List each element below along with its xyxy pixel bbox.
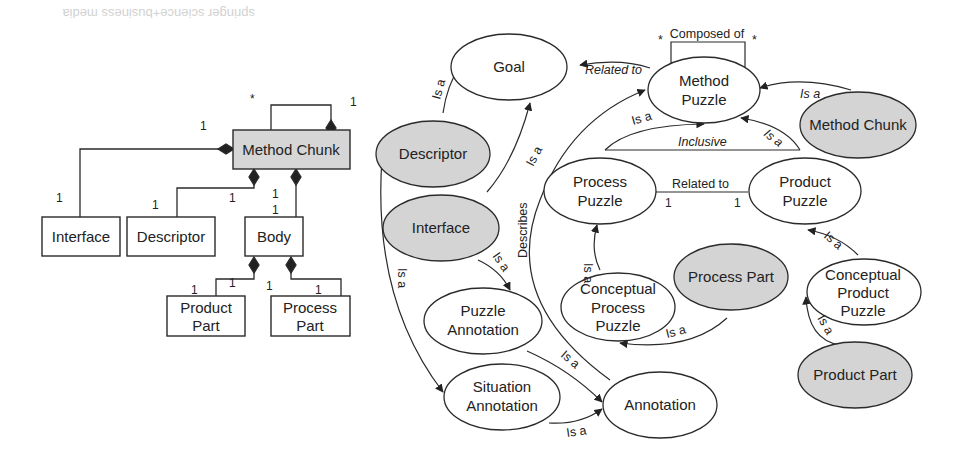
uml-multiplicities: * 1 1 1 1 1 1 1 1 1 1 1 (56, 92, 357, 297)
caption-fragment: springer science+business media (62, 6, 255, 21)
edge-label-is-a: Is a (429, 78, 448, 101)
node-puzzle-annotation-label-2: Annotation (447, 321, 519, 338)
multiplicity: 1 (272, 187, 279, 201)
node-product-part[interactable]: Product Part (798, 342, 912, 408)
node-conceptual-process-label-2: Process (591, 299, 645, 316)
multiplicity: 1 (229, 191, 236, 205)
edge-label-is-a: Is a (558, 348, 582, 372)
uml-classes: Method Chunk Interface Descriptor Body P… (42, 130, 350, 336)
class-product-part-label-2: Part (192, 317, 220, 334)
node-annotation[interactable]: Annotation (603, 372, 717, 438)
node-puzzle-annotation-label-1: Puzzle (460, 302, 505, 319)
node-descriptor-label: Descriptor (399, 145, 467, 162)
node-method-puzzle-label-1: Method (679, 72, 729, 89)
edge-label-is-a: Is a (761, 126, 786, 149)
node-descriptor[interactable]: Descriptor (376, 121, 490, 187)
node-situation-annotation[interactable]: Situation Annotation (444, 364, 560, 430)
multiplicity: * (250, 92, 255, 106)
node-interface[interactable]: Interface (383, 195, 499, 261)
node-annotation-label: Annotation (624, 396, 696, 413)
node-method-chunk-label: Method Chunk (809, 116, 907, 133)
node-process-puzzle-label-2: Puzzle (577, 192, 622, 209)
edge-label-is-a: Is a (490, 250, 513, 275)
node-product-puzzle-label-2: Puzzle (782, 192, 827, 209)
multiplicity: 1 (266, 279, 273, 293)
multiplicity: 1 (272, 203, 279, 217)
multiplicity: 1 (665, 196, 672, 210)
multiplicity: 1 (191, 283, 198, 297)
edge-label-is-a: Is a (630, 109, 653, 128)
node-conceptual-process-puzzle[interactable]: Conceptual Process Puzzle (561, 273, 675, 341)
multiplicity: 1 (229, 276, 236, 290)
edge-label-inclusive: Inclusive (678, 135, 727, 149)
multiplicity: 1 (200, 119, 207, 133)
node-process-puzzle-label-1: Process (573, 173, 627, 190)
concept-diagram: springer science+business media Method C… (0, 0, 960, 456)
composition-diamond-icon (218, 144, 234, 154)
composition-diamond-icon (286, 257, 296, 273)
class-product-part-label-1: Product (180, 299, 233, 316)
node-method-puzzle-label-2: Puzzle (681, 91, 726, 108)
node-product-puzzle-label-1: Product (779, 173, 832, 190)
composition-diamond-icon (249, 169, 259, 185)
edge-label-is-a: Is a (523, 144, 545, 168)
edge-label-is-a: Is a (395, 268, 409, 288)
node-situation-annotation-label-1: Situation (473, 378, 531, 395)
edge-label-is-a: Is a (800, 87, 820, 101)
edge-label-is-a: Is a (565, 423, 587, 440)
edge-label-star: * (752, 33, 757, 47)
edge-label-composed-of: Composed of (670, 27, 745, 41)
node-goal[interactable]: Goal (451, 34, 567, 100)
multiplicity: 1 (315, 283, 322, 297)
class-descriptor-label: Descriptor (137, 228, 205, 245)
node-goal-label: Goal (493, 58, 525, 75)
composition-diamond-icon (249, 257, 259, 273)
edge-label-related-to-goal: Related to (585, 63, 642, 77)
edge-label-is-a: Is a (581, 263, 595, 283)
edge-label-related-to: Related to (672, 177, 729, 191)
node-conceptual-product-label-3: Puzzle (840, 302, 885, 319)
class-process-part-label-2: Part (296, 317, 324, 334)
node-product-puzzle[interactable]: Product Puzzle (749, 158, 861, 224)
node-conceptual-process-label-3: Puzzle (595, 317, 640, 334)
multiplicity: 1 (152, 198, 159, 212)
node-process-part-label: Process Part (688, 268, 775, 285)
node-process-puzzle[interactable]: Process Puzzle (544, 158, 656, 224)
node-method-chunk[interactable]: Method Chunk (800, 92, 916, 158)
node-situation-annotation-label-2: Annotation (466, 397, 538, 414)
class-interface-label: Interface (52, 228, 110, 245)
class-process-part-label-1: Process (283, 299, 337, 316)
node-interface-label: Interface (412, 219, 470, 236)
multiplicity: 1 (350, 95, 357, 109)
node-method-puzzle[interactable]: Method Puzzle (648, 57, 760, 123)
edge-label-is-a: Is a (821, 229, 845, 253)
multiplicity: 1 (734, 196, 741, 210)
edge-label-describes: Describes (516, 202, 530, 258)
multiplicity: 1 (56, 191, 63, 205)
class-method-chunk-label: Method Chunk (242, 141, 340, 158)
edge-label-star: * (658, 33, 663, 47)
edge-label-is-a: Is a (664, 322, 687, 340)
composition-diamond-icon (291, 169, 301, 185)
node-process-part[interactable]: Process Part (674, 244, 788, 310)
class-body-label: Body (257, 228, 292, 245)
node-product-part-label: Product Part (813, 366, 897, 383)
node-conceptual-product-label-1: Conceptual (825, 266, 901, 283)
node-conceptual-product-label-2: Product (837, 284, 890, 301)
node-puzzle-annotation[interactable]: Puzzle Annotation (424, 288, 542, 354)
